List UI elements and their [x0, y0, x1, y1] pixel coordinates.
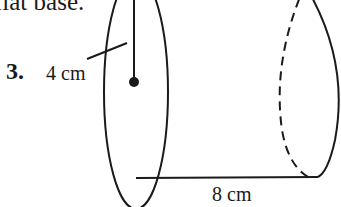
cylinder-figure: [0, 0, 341, 207]
center-point: [129, 77, 139, 87]
back-base-hidden-edge: [280, 0, 308, 177]
back-base-visible-edge: [305, 0, 339, 177]
bottom-edge: [136, 177, 318, 178]
front-base-ellipse: [104, 0, 168, 207]
